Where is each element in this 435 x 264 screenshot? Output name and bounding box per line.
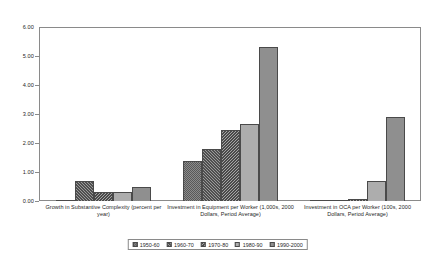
legend-swatch-icon — [132, 242, 137, 247]
y-axis-tick-label: 0.00 — [0, 196, 39, 206]
bar — [75, 181, 94, 201]
bar — [329, 200, 348, 201]
bar — [113, 192, 132, 201]
legend-label: 1970-80 — [208, 242, 228, 248]
bar — [348, 199, 367, 201]
legend-item: 1950-60 — [132, 242, 159, 248]
x-axis-category-label: Investment in OCA per Worker (100s, 2000… — [297, 204, 419, 219]
bar — [132, 187, 151, 202]
legend-label: 1980-90 — [243, 242, 263, 248]
x-axis-category-label: Growth in Substantive Complexity (percen… — [40, 204, 168, 219]
y-axis-tick-mark — [35, 201, 39, 202]
legend-label: 1960-70 — [174, 242, 194, 248]
bar-group — [40, 27, 167, 201]
bar-group — [294, 27, 421, 201]
y-axis-tick-label: 3.00 — [0, 109, 39, 119]
legend-label: 1950-60 — [140, 242, 160, 248]
legend-item: 1990-2000 — [269, 242, 302, 248]
legend-item: 1970-80 — [201, 242, 228, 248]
category-labels: Growth in Substantive Complexity (percen… — [40, 204, 421, 232]
chart-legend: 1950-601960-701970-801980-901990-2000 — [127, 239, 307, 250]
y-axis: 0.001.002.003.004.005.006.00 — [0, 0, 39, 201]
bar — [183, 161, 202, 201]
bar — [94, 192, 113, 201]
legend-swatch-icon — [269, 242, 274, 247]
bar — [221, 130, 240, 201]
legend-label: 1990-2000 — [277, 242, 303, 248]
bar — [56, 200, 75, 201]
y-axis-tick-label: 4.00 — [0, 80, 39, 90]
bar-series-container — [40, 27, 421, 201]
bar — [202, 149, 221, 201]
x-axis-category-label: Investment in Equipment per Worker (1,00… — [162, 204, 300, 219]
bar — [240, 124, 259, 201]
y-axis-tick-label: 5.00 — [0, 51, 39, 61]
y-axis-tick-label: 1.00 — [0, 167, 39, 177]
bar — [386, 117, 405, 201]
legend-item: 1960-70 — [167, 242, 194, 248]
legend-swatch-icon — [167, 242, 172, 247]
legend-swatch-icon — [235, 242, 240, 247]
bar — [367, 181, 386, 201]
bar-group — [167, 27, 294, 201]
bar — [259, 47, 278, 201]
y-axis-tick-label: 2.00 — [0, 138, 39, 148]
y-axis-tick-label: 6.00 — [0, 22, 39, 32]
legend-item: 1980-90 — [235, 242, 262, 248]
legend-swatch-icon — [201, 242, 206, 247]
bar — [310, 200, 329, 201]
chart-figure: 0.001.002.003.004.005.006.00 Growth in S… — [0, 0, 435, 264]
